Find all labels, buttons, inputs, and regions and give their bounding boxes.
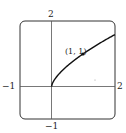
viewing-window-frame [20, 21, 115, 119]
curve-x-two-thirds [52, 35, 115, 87]
y-min-label: −1 [45, 122, 58, 131]
y-max-label: 2 [48, 10, 54, 19]
stray-mark [95, 80, 96, 81]
plot-area [0, 0, 126, 133]
point-label: (1, 1) [65, 48, 87, 56]
x-max-label: 2 [117, 82, 123, 91]
x-min-label: −1 [2, 82, 15, 91]
